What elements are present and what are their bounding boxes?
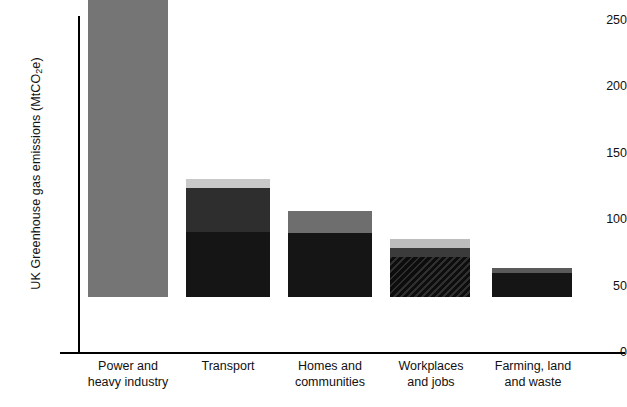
x-category-label-farming: Farming, land and waste xyxy=(478,358,588,390)
bar-homes-and-communities[interactable] xyxy=(288,211,372,297)
x-category-label-power-line2: heavy industry xyxy=(68,374,188,390)
bar-workplaces-and-jobs-segment-2 xyxy=(390,248,470,257)
bar-homes-and-communities-segment-2 xyxy=(288,211,372,234)
x-category-label-transport-line1: Transport xyxy=(178,358,278,374)
x-category-label-workplaces-line1: Workplaces xyxy=(378,358,484,374)
x-axis-line xyxy=(60,352,625,354)
x-category-label-homes-line2: communities xyxy=(275,374,385,390)
bar-transport-segment-1 xyxy=(186,232,270,297)
x-category-label-power-line1: Power and xyxy=(68,358,188,374)
x-category-label-farming-line1: Farming, land xyxy=(478,358,588,374)
bar-farming-land-and-waste[interactable] xyxy=(492,268,572,297)
bar-transport[interactable] xyxy=(186,179,270,297)
bar-farming-land-and-waste-segment-1 xyxy=(492,273,572,297)
bar-workplaces-and-jobs-segment-1 xyxy=(390,257,470,297)
bar-homes-and-communities-segment-1 xyxy=(288,233,372,297)
x-category-label-power: Power and heavy industry xyxy=(68,358,188,390)
x-category-label-workplaces: Workplaces and jobs xyxy=(378,358,484,390)
bar-power-and-heavy-industry-segment-1 xyxy=(88,0,168,297)
bar-workplaces-and-jobs-segment-3 xyxy=(390,239,470,248)
bar-workplaces-and-jobs[interactable] xyxy=(390,239,470,297)
bar-transport-segment-3 xyxy=(186,179,270,188)
x-category-label-farming-line2: and waste xyxy=(478,374,588,390)
plot-area xyxy=(0,0,627,352)
x-category-label-homes-line1: Homes and xyxy=(275,358,385,374)
x-category-label-transport: Transport xyxy=(178,358,278,374)
bar-power-and-heavy-industry[interactable] xyxy=(88,0,168,297)
x-category-label-workplaces-line2: and jobs xyxy=(378,374,484,390)
bar-transport-segment-2 xyxy=(186,188,270,232)
bar-chart: UK Greenhouse gas emissions (MtCO2e) 0 5… xyxy=(0,0,627,407)
x-category-label-homes: Homes and communities xyxy=(275,358,385,390)
